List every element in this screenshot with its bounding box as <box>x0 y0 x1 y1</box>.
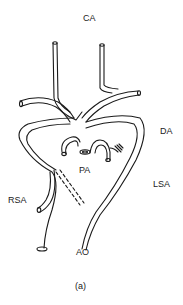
label-lsa: LSA <box>153 180 170 189</box>
figure-caption: (a) <box>75 282 86 291</box>
carotid-arteries <box>53 42 118 120</box>
aortic-loop <box>19 116 144 251</box>
rsa-vessel <box>37 170 55 212</box>
label-pa: PA <box>79 166 90 175</box>
label-ca: CA <box>83 14 96 23</box>
dashed-connection <box>56 170 84 205</box>
label-rsa: RSA <box>8 196 27 205</box>
vascular-diagram: CA DA PA LSA RSA AO (a) <box>0 0 183 305</box>
label-ao: AO <box>76 248 89 257</box>
right-branch <box>82 91 141 122</box>
pulmonary-artery <box>62 137 123 162</box>
vessel-drawing <box>0 0 183 305</box>
label-da: DA <box>160 127 173 136</box>
